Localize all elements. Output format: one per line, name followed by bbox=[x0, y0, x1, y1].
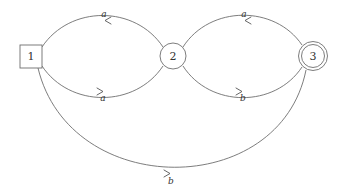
node-label: 2 bbox=[170, 50, 177, 63]
automaton-diagram: a a a b b 1 2 3 bbox=[0, 0, 347, 191]
edge-label: a bbox=[101, 9, 106, 19]
edge-label: a bbox=[100, 93, 105, 103]
node-label: 3 bbox=[310, 50, 317, 63]
node-label: 1 bbox=[28, 50, 35, 63]
edge-3-to-2: a bbox=[183, 9, 302, 47]
edge-1-to-2: a bbox=[42, 66, 163, 103]
edge-2-to-3: b bbox=[183, 66, 302, 103]
node-3: 3 bbox=[299, 42, 328, 71]
edge-2-to-1: a bbox=[42, 9, 163, 47]
edge-1-to-3: b bbox=[38, 68, 306, 186]
node-1: 1 bbox=[20, 45, 42, 68]
edge-label: b bbox=[240, 93, 246, 103]
edge-label: b bbox=[168, 176, 174, 186]
edge-label: a bbox=[241, 9, 246, 19]
node-2: 2 bbox=[160, 43, 186, 69]
